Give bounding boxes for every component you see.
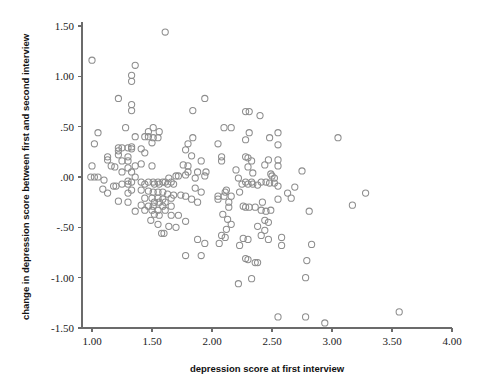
data-point (198, 252, 204, 258)
x-axis-title: depression score at first interview (190, 363, 345, 374)
data-point (228, 221, 234, 227)
x-axis-ticks: 1.001.502.002.503.003.504.00 (82, 328, 462, 347)
data-point (237, 189, 243, 195)
data-point (119, 181, 125, 187)
data-point (168, 203, 174, 209)
data-point (162, 29, 168, 35)
data-point (363, 190, 369, 196)
data-point (275, 196, 281, 202)
data-point (223, 226, 229, 232)
data-point (138, 161, 144, 167)
data-point (198, 189, 204, 195)
y-tick-label: -1.50 (51, 322, 74, 334)
y-tick-label: .50 (60, 121, 74, 133)
data-point (129, 101, 135, 107)
data-point (275, 163, 281, 169)
data-point (125, 158, 131, 164)
data-point (237, 242, 243, 248)
data-point (303, 275, 309, 281)
data-point (156, 129, 162, 135)
y-axis-ticks: 1.501.00.50.00-.50-1.00-1.50 (51, 20, 82, 334)
data-point (195, 236, 201, 242)
data-point (275, 157, 281, 163)
data-point (250, 170, 256, 176)
data-point (275, 130, 281, 136)
data-point (89, 57, 95, 63)
data-point (192, 175, 198, 181)
data-point (195, 169, 201, 175)
data-point (101, 177, 107, 183)
data-point (190, 107, 196, 113)
data-point (279, 242, 285, 248)
data-point (138, 187, 144, 193)
data-point (89, 163, 95, 169)
data-point (228, 193, 234, 199)
y-tick-label: .00 (60, 171, 74, 183)
x-tick-label: 1.00 (82, 335, 102, 347)
data-point (175, 212, 181, 218)
plot-canvas: 1.501.00.50.00-.50-1.00-1.501.001.502.00… (0, 0, 485, 390)
data-point (235, 175, 241, 181)
data-point (222, 189, 228, 195)
data-point (322, 320, 328, 326)
x-tick-label: 3.50 (382, 335, 402, 347)
data-point (155, 221, 161, 227)
data-point (349, 202, 355, 208)
data-point (149, 163, 155, 169)
data-point (189, 196, 195, 202)
data-point (275, 142, 281, 148)
data-point (233, 167, 239, 173)
data-point (202, 95, 208, 101)
data-point (198, 158, 204, 164)
data-point (195, 199, 201, 205)
data-point (173, 224, 179, 230)
data-point (303, 314, 309, 320)
data-point (219, 158, 225, 164)
data-point (166, 223, 172, 229)
data-point (255, 223, 261, 229)
data-point (125, 199, 131, 205)
data-point (243, 137, 249, 143)
data-point-group (88, 29, 403, 326)
data-point (279, 234, 285, 240)
data-point (215, 141, 221, 147)
data-point (335, 135, 341, 141)
data-point (192, 185, 198, 191)
data-point (221, 193, 227, 199)
data-point (132, 163, 138, 169)
data-point (112, 164, 118, 170)
x-tick-label: 4.00 (442, 335, 462, 347)
data-point (299, 168, 305, 174)
data-point (216, 240, 222, 246)
data-point (168, 212, 174, 218)
x-tick-label: 2.00 (202, 335, 222, 347)
data-point (189, 153, 195, 159)
y-tick-label: 1.50 (55, 20, 75, 32)
scatter-plot-figure: 1.501.00.50.00-.50-1.00-1.501.001.502.00… (0, 0, 485, 390)
data-point (190, 135, 196, 141)
x-tick-label: 1.50 (142, 335, 162, 347)
data-point (258, 232, 264, 238)
data-point (183, 147, 189, 153)
data-point (132, 134, 138, 140)
data-point (119, 158, 125, 164)
y-axis-title: change in depression score between first… (20, 33, 31, 320)
data-point (129, 72, 135, 78)
data-point (396, 309, 402, 315)
data-point (142, 150, 148, 156)
data-point (105, 190, 111, 196)
x-tick-label: 2.50 (262, 335, 282, 347)
data-point (246, 130, 252, 136)
data-point (125, 165, 131, 171)
data-point (265, 236, 271, 242)
data-point (142, 195, 148, 201)
y-tick-label: -.50 (57, 221, 75, 233)
data-point (183, 252, 189, 258)
data-point (245, 164, 251, 170)
data-point (252, 204, 258, 210)
data-point (259, 199, 265, 205)
data-point (123, 125, 129, 131)
data-point (275, 314, 281, 320)
data-point (129, 107, 135, 113)
data-point (142, 207, 148, 213)
